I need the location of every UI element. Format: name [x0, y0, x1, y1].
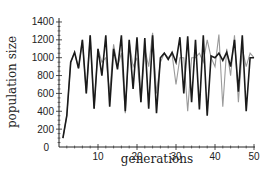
axes: 200400600800100012001400 1020304050 — [32, 16, 260, 162]
y-tick-label: 1400 — [32, 16, 55, 27]
y-tick-label: 1200 — [32, 34, 55, 45]
y-tick-label: 800 — [37, 70, 54, 81]
x-tick-label: 50 — [248, 151, 260, 162]
x-origin-label: 0 — [43, 142, 49, 153]
y-tick-label: 200 — [37, 124, 54, 135]
x-tick-label: 10 — [92, 151, 104, 162]
x-tick-label: 40 — [209, 151, 221, 162]
y-tick-label: 1000 — [32, 52, 55, 63]
x-axis-title: generations — [121, 152, 193, 166]
y-tick-label: 400 — [37, 106, 54, 117]
y-ticks: 200400600800100012001400 — [32, 16, 62, 142]
population-line-chart: 200400600800100012001400 1020304050 0 ge… — [0, 0, 273, 173]
y-tick-label: 600 — [37, 88, 54, 99]
series-dark-line — [63, 35, 254, 138]
y-axis-title: population size — [5, 36, 19, 128]
plot-series — [63, 33, 254, 138]
